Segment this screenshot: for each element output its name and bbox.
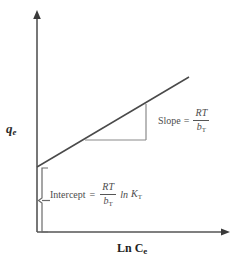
intercept-brace [39, 168, 51, 232]
slope-triangle [85, 104, 146, 140]
slope-denominator: bT [195, 122, 208, 134]
intercept-denominator: bT [102, 196, 115, 208]
x-axis-label-subscript: e [143, 246, 147, 256]
y-axis-label: qe [6, 122, 17, 137]
slope-numerator: RT [194, 108, 210, 119]
intercept-fraction: RT bT [100, 182, 116, 208]
intercept-label: Intercept [50, 190, 86, 200]
y-axis [33, 10, 41, 232]
slope-label: Slope [158, 116, 181, 126]
y-axis-label-subscript: e [13, 127, 17, 137]
intercept-constant-subscript: T [138, 193, 142, 201]
x-axis-label-text: Ln C [117, 241, 143, 255]
x-axis-label: Ln Ce [117, 242, 147, 256]
intercept-constant: KT [131, 189, 142, 201]
figure-canvas: qe Ln Ce Slope = RT bT Intercept = RT bT… [0, 0, 235, 262]
slope-fraction: RT bT [193, 108, 209, 134]
intercept-ln-operator: ln [120, 190, 128, 200]
intercept-numerator: RT [100, 182, 116, 193]
intercept-denominator-subscript: T [109, 200, 113, 208]
slope-denominator-subscript: T [202, 126, 206, 134]
slope-annotation: Slope = RT bT [158, 108, 210, 134]
slope-equals-sign: = [183, 116, 191, 126]
intercept-annotation: Intercept = RT bT ln KT [50, 182, 142, 208]
x-axis [37, 228, 230, 235]
intercept-equals-sign: = [89, 190, 97, 200]
